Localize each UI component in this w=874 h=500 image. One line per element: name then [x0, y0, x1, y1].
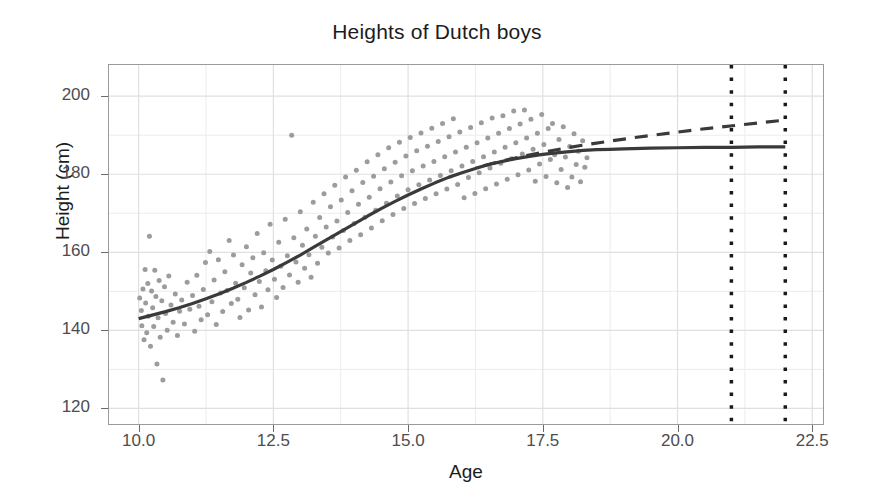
x-tick-mark: [678, 425, 679, 432]
chart-figure: Heights of Dutch boys Height (cm) 120140…: [0, 0, 874, 500]
x-tick-mark: [139, 425, 140, 432]
x-tick-label: 15.0: [373, 431, 443, 451]
x-tick-mark: [273, 425, 274, 432]
x-tick-mark: [812, 425, 813, 432]
x-tick-label: 17.5: [508, 431, 578, 451]
x-tick-mark: [408, 425, 409, 432]
x-tick-mark: [543, 425, 544, 432]
x-tick-label: 12.5: [238, 431, 308, 451]
x-tick-label: 22.5: [777, 431, 847, 451]
x-tick-label: 20.0: [643, 431, 713, 451]
x-axis-ticks: 10.012.515.017.520.022.5: [0, 0, 874, 500]
x-tick-label: 10.0: [104, 431, 174, 451]
x-axis-title: Age: [108, 461, 824, 483]
